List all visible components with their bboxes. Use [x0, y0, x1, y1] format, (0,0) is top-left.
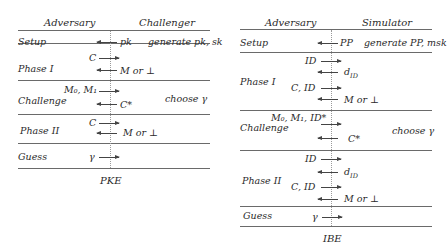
- ibe-rule-top: [240, 29, 432, 30]
- pke-rule-phase2: [18, 143, 210, 144]
- ibe-rule-setup: [240, 52, 432, 53]
- ibe-challenge-label: Challenge: [240, 122, 289, 133]
- pke-phase2-query: C: [89, 117, 96, 128]
- ibe-phase2-key-response: dID: [344, 166, 358, 182]
- ibe-rule-phase1: [240, 110, 432, 111]
- pke-setup-label: Setup: [18, 36, 46, 47]
- ibe-guess-label: Guess: [243, 210, 272, 221]
- pke-phase2-label: Phase II: [20, 125, 59, 136]
- ibe-phase2-arrow-right-2: [321, 187, 341, 188]
- ibe-simulator-header: Simulator: [362, 17, 412, 28]
- pke-challenge-messages: M₀, M₁: [64, 84, 97, 95]
- pke-challenge-ciphertext: C*: [120, 99, 132, 110]
- ibe-timeline-divider: [331, 30, 332, 226]
- pke-phase2-arrow-right: [99, 123, 119, 124]
- ibe-phase2-arrow-left-2: [318, 199, 338, 200]
- pke-phase2-arrow-left: [97, 133, 117, 134]
- pke-rule-phase1: [18, 80, 210, 81]
- ibe-challenge-ciphertext: C*: [348, 133, 360, 144]
- pke-guess-label: Guess: [18, 151, 47, 162]
- pke-guess-value: γ: [89, 151, 95, 162]
- ibe-challenge-messages: M₀, M₁, ID*: [271, 112, 326, 123]
- ibe-phase1-id-query: ID: [305, 55, 316, 66]
- ibe-guess-value: γ: [312, 211, 318, 222]
- pke-caption: PKE: [100, 175, 122, 186]
- pke-rule-challenge: [18, 114, 210, 115]
- pke-rule-bottom: [18, 168, 210, 169]
- ibe-phase2-label: Phase II: [242, 175, 281, 186]
- ibe-phase2-key-sub: ID: [350, 172, 358, 180]
- ibe-rule-bottom: [240, 226, 432, 227]
- ibe-phase1-key-response: dID: [344, 66, 358, 82]
- ibe-phase1-key-sub: ID: [350, 72, 358, 80]
- ibe-setup-arrow-left: [318, 43, 338, 44]
- pke-challenge-arrow-left: [97, 104, 117, 105]
- pke-phase1-label: Phase I: [18, 63, 53, 74]
- ibe-setup-note: generate PP, msk: [364, 37, 447, 48]
- pke-phase1-arrow-left: [97, 70, 117, 71]
- ibe-challenge-arrow-left: [318, 138, 338, 139]
- ibe-phase2-arrow-left-1: [318, 172, 338, 173]
- ibe-phase1-arrow-right-1: [321, 61, 341, 62]
- pke-challenge-arrow-right: [99, 91, 119, 92]
- ibe-caption: IBE: [323, 233, 342, 244]
- ibe-challenge-arrow-right: [321, 124, 341, 125]
- pke-guess-arrow-right: [99, 157, 119, 158]
- ibe-rule-phase2: [240, 206, 432, 207]
- pke-timeline-divider: [110, 31, 111, 168]
- pke-phase2-response: M or ⊥: [123, 127, 158, 138]
- ibe-phase2-decrypt-response: M or ⊥: [344, 193, 379, 204]
- ibe-setup-label: Setup: [240, 37, 268, 48]
- pke-setup-pk: pk: [120, 36, 132, 47]
- pke-rule-top: [18, 30, 210, 31]
- pke-phase1-query: C: [89, 52, 96, 63]
- ibe-phase2-arrow-right-1: [321, 159, 341, 160]
- pke-setup-arrow-left: [97, 42, 117, 43]
- pke-challenge-label: Challenge: [18, 95, 67, 106]
- pke-setup-note: generate pk, sk: [148, 36, 223, 47]
- pke-adversary-header: Adversary: [44, 17, 96, 28]
- ibe-phase1-decrypt-response: M or ⊥: [344, 94, 379, 105]
- ibe-rule-challenge: [240, 150, 432, 151]
- pke-phase1-arrow-right: [99, 58, 119, 59]
- ibe-phase1-arrow-left-1: [318, 72, 338, 73]
- ibe-phase2-decrypt-query: C, ID: [291, 181, 315, 192]
- ibe-adversary-header: Adversary: [265, 17, 317, 28]
- pke-challenge-note: choose γ: [165, 93, 207, 104]
- ibe-phase2-id-query: ID: [305, 153, 316, 164]
- pke-phase1-response: M or ⊥: [120, 65, 155, 76]
- ibe-phase1-arrow-left-2: [318, 99, 338, 100]
- ibe-phase1-arrow-right-2: [321, 88, 341, 89]
- ibe-setup-pp: PP: [340, 37, 353, 48]
- ibe-guess-arrow-right: [322, 217, 342, 218]
- ibe-phase1-label: Phase I: [240, 76, 275, 87]
- ibe-challenge-note: choose γ: [392, 125, 434, 136]
- ibe-phase1-decrypt-query: C, ID: [291, 82, 315, 93]
- pke-challenger-header: Challenger: [139, 17, 195, 28]
